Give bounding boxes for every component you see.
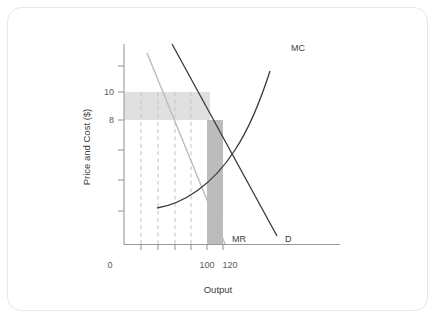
curve-d <box>172 44 277 236</box>
x-origin-label: 0 <box>107 260 112 270</box>
y-axis-title: Price and Cost ($) <box>81 109 92 186</box>
x-tick-label-100: 100 <box>199 260 214 270</box>
curve-label-mc: MC <box>291 43 305 53</box>
curve-label-d: D <box>285 234 292 244</box>
y-tick-label-8: 8 <box>109 115 114 125</box>
y-tick-label-10: 10 <box>104 87 114 97</box>
shaded-region-economic-profit <box>124 92 210 120</box>
curve-label-mr: MR <box>232 234 246 244</box>
shaded-region-output-band <box>207 120 223 244</box>
x-tick-label-120: 120 <box>222 260 237 270</box>
economics-chart: 10 8 0 100 120 MC MR D Output Price and … <box>0 0 435 318</box>
x-axis-title: Output <box>204 284 233 295</box>
